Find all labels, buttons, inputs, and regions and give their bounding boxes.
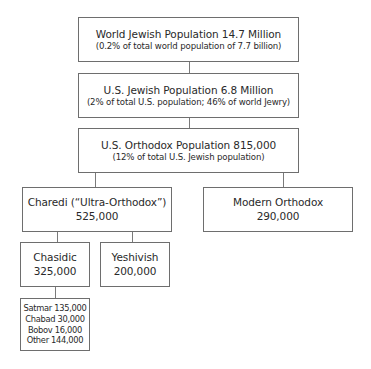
node-us-population: U.S. Jewish Population 6.8 Million (2% o… xyxy=(78,73,299,118)
connector-chasidic-groups xyxy=(55,287,56,298)
group-item-chabad: Chabad 30,000 xyxy=(25,314,85,325)
node-world-population: World Jewish Population 14.7 Million (0.… xyxy=(78,17,299,62)
node-value: 525,000 xyxy=(76,210,119,223)
node-title: U.S. Jewish Population 6.8 Million xyxy=(104,84,274,97)
node-subtitle: (0.2% of total world population of 7.7 b… xyxy=(96,41,282,52)
node-orthodox-population: U.S. Orthodox Population 815,000 (12% of… xyxy=(78,128,299,173)
node-subtitle: (12% of total U.S. Jewish population) xyxy=(113,152,265,163)
node-value: 200,000 xyxy=(114,265,157,278)
node-yeshivish: Yeshivish 200,000 xyxy=(100,242,170,287)
connector-charedi-yeshivish xyxy=(132,232,133,242)
node-title: U.S. Orthodox Population 815,000 xyxy=(101,139,276,152)
group-item-bobov: Bobov 16,000 xyxy=(28,325,82,336)
node-title: Modern Orthodox xyxy=(233,196,323,209)
node-subtitle: (2% of total U.S. population; 46% of wor… xyxy=(87,97,290,108)
connector-us-orthodox xyxy=(189,118,190,128)
node-chasidic-groups: Satmar 135,000 Chabad 30,000 Bobov 16,00… xyxy=(20,298,90,351)
connector-orthodox-charedi xyxy=(95,173,96,187)
group-item-satmar: Satmar 135,000 xyxy=(24,303,87,314)
node-charedi: Charedi (“Ultra-Orthodox”) 525,000 xyxy=(22,187,172,232)
connector-orthodox-modern xyxy=(283,173,284,187)
node-value: 290,000 xyxy=(257,210,300,223)
node-title: Charedi (“Ultra-Orthodox”) xyxy=(28,196,167,209)
node-modern-orthodox: Modern Orthodox 290,000 xyxy=(203,187,353,232)
connector-charedi-chasidic xyxy=(57,232,58,242)
node-title: Yeshivish xyxy=(112,251,159,264)
node-title: Chasidic xyxy=(33,251,76,264)
node-chasidic: Chasidic 325,000 xyxy=(20,242,90,287)
node-value: 325,000 xyxy=(34,265,77,278)
connector-world-us xyxy=(189,62,190,73)
group-item-other: Other 144,000 xyxy=(27,335,84,346)
node-title: World Jewish Population 14.7 Million xyxy=(96,28,281,41)
